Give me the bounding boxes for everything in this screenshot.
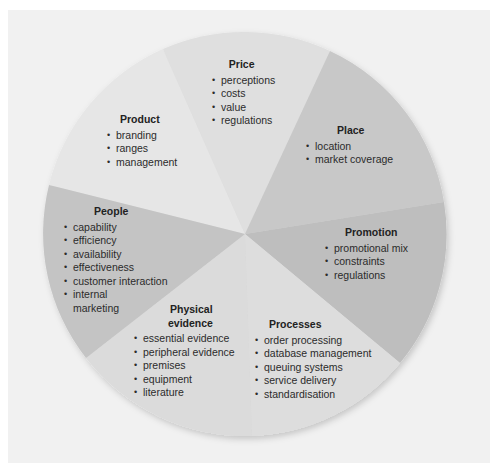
segment-label-physical-evidence: Physical evidence essential evidence per…	[134, 303, 235, 400]
list-item: branding	[107, 129, 177, 143]
segment-label-price: Price perceptions costs value regulation…	[212, 58, 275, 128]
list-item: peripheral evidence	[134, 346, 235, 360]
list-item: ranges	[107, 142, 177, 156]
list-item: availability	[64, 248, 168, 262]
list-item: perceptions	[212, 74, 275, 88]
segment-title: People	[64, 205, 168, 219]
segment-label-processes: Processes order processing database mana…	[255, 318, 371, 401]
list-item: queuing systems	[255, 361, 371, 375]
list-item: essential evidence	[134, 332, 235, 346]
list-item: regulations	[325, 269, 408, 283]
list-item: regulations	[212, 114, 275, 128]
list-item: premises	[134, 359, 235, 373]
segment-title: evidence	[134, 317, 235, 331]
list-item: capability	[64, 221, 168, 235]
list-item: equipment	[134, 373, 235, 387]
segment-title: Place	[306, 124, 393, 138]
list-item: management	[107, 156, 177, 170]
list-item: market coverage	[306, 153, 393, 167]
segment-label-people: People capability efficiency availabilit…	[64, 205, 168, 315]
list-item: efficiency	[64, 234, 168, 248]
segment-label-promotion: Promotion promotional mix constraints re…	[325, 226, 408, 282]
list-item: promotional mix	[325, 242, 408, 256]
list-item: customer interaction	[64, 275, 168, 289]
list-item: standardisation	[255, 388, 371, 402]
list-item: order processing	[255, 334, 371, 348]
segment-label-product: Product branding ranges management	[107, 113, 177, 169]
list-item: effectiveness	[64, 261, 168, 275]
segment-title: Product	[107, 113, 177, 127]
list-item: literature	[134, 386, 235, 400]
segment-title: Processes	[255, 318, 371, 332]
list-item-continuation: marketing	[64, 302, 168, 316]
list-item: database management	[255, 347, 371, 361]
segment-label-place: Place location market coverage	[306, 124, 393, 167]
list-item: costs	[212, 87, 275, 101]
segment-title: Price	[208, 58, 275, 72]
list-item: internal	[64, 288, 168, 302]
segment-title: Promotion	[325, 226, 408, 240]
list-item: constraints	[325, 255, 408, 269]
list-item: service delivery	[255, 374, 371, 388]
list-item: location	[306, 140, 393, 154]
list-item: value	[212, 101, 275, 115]
